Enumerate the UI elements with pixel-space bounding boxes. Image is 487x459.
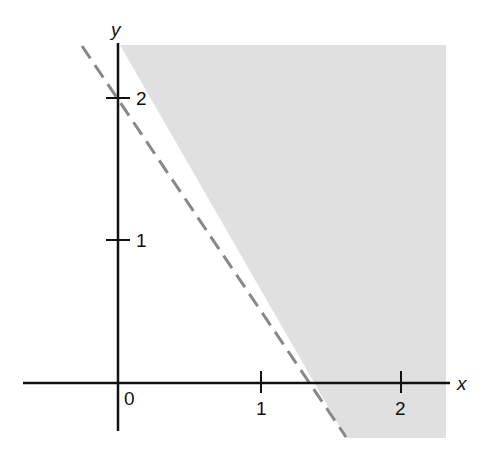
x-axis-label: x (456, 373, 468, 394)
x-tick-label-1: 1 (256, 398, 267, 419)
shaded-region (120, 45, 446, 438)
x-tick-label-2: 2 (395, 398, 406, 419)
y-tick-label-1: 1 (136, 230, 147, 251)
inequality-graph: y x 0 1 2 1 2 (0, 0, 487, 459)
y-axis-label: y (109, 19, 122, 40)
y-tick-label-2: 2 (136, 88, 147, 109)
origin-label: 0 (124, 388, 135, 409)
